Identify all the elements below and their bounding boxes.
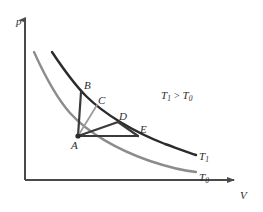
segment-A-D bbox=[78, 122, 118, 136]
point-label-C: C bbox=[98, 95, 105, 106]
diagram-canvas bbox=[0, 0, 263, 212]
point-label-D: D bbox=[119, 111, 127, 122]
point-label-B: B bbox=[84, 80, 91, 91]
point-marker-A bbox=[75, 133, 80, 138]
segment-A-B bbox=[78, 92, 81, 136]
annotation-T0-sub: 0 bbox=[189, 94, 193, 103]
annotation-T1-sub: 1 bbox=[167, 94, 171, 103]
pressure-axis-label: p bbox=[16, 16, 22, 27]
pv-diagram-figure: p V A B C D E T1 T0 T1>T0 bbox=[0, 0, 263, 212]
curve-label-T1: T1 bbox=[199, 151, 209, 163]
volume-axis-label: V bbox=[240, 190, 247, 201]
point-label-E: E bbox=[140, 124, 147, 135]
curve-label-T0: T0 bbox=[199, 172, 209, 184]
annotation-operator: > bbox=[174, 90, 180, 101]
curve-label-T1-sub: 1 bbox=[205, 155, 209, 164]
segment-D-E bbox=[118, 122, 138, 136]
curve-label-T0-sub: 0 bbox=[205, 176, 209, 185]
point-label-A: A bbox=[71, 140, 78, 151]
temperature-inequality-annotation: T1>T0 bbox=[161, 90, 192, 102]
isotherm-curve-T0 bbox=[34, 52, 196, 172]
